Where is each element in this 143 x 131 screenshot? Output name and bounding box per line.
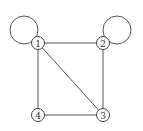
node-2-label: 2 (100, 39, 106, 49)
graph-diagram: 1 2 3 4 (0, 0, 143, 131)
node-1-label: 1 (35, 39, 41, 49)
node-3-label: 3 (100, 111, 106, 121)
node-4-label: 4 (35, 111, 41, 121)
edge-1-3 (38, 43, 103, 115)
node-3: 3 (97, 109, 110, 122)
node-1: 1 (32, 37, 45, 50)
node-4: 4 (32, 109, 45, 122)
node-2: 2 (97, 37, 110, 50)
